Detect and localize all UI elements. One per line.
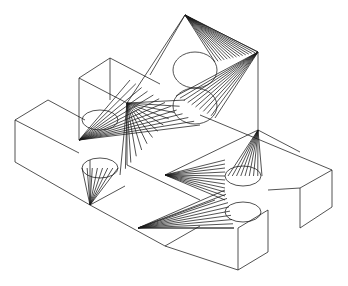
ruling-line [79, 121, 194, 140]
ruling-line [138, 198, 227, 228]
ruling-line [180, 52, 258, 98]
edge-line [200, 115, 332, 170]
ruling-line [138, 194, 226, 228]
cylinder-ellipse [173, 52, 217, 88]
edge-line [165, 246, 238, 270]
ruling-line [90, 168, 108, 205]
edge-line [79, 58, 110, 78]
ruling-line [258, 130, 262, 176]
cylinder-ellipse [225, 202, 261, 222]
ruling-line [199, 52, 258, 109]
ruling-line [184, 52, 258, 100]
edge-line [165, 226, 200, 246]
edge-line [258, 130, 300, 152]
edge-line [238, 252, 268, 270]
edge-line [238, 210, 268, 228]
edge-line [15, 162, 90, 205]
wireframe-figure [0, 0, 348, 286]
ruling-line [185, 15, 258, 52]
edge-line [48, 100, 85, 120]
ruling-line [90, 168, 118, 205]
ruling-line [215, 52, 258, 118]
block-edges [15, 15, 332, 270]
edge-line [300, 207, 332, 228]
ruling-line [138, 211, 230, 228]
ruling-line [176, 52, 258, 96]
ruling-line [165, 168, 225, 175]
ruling-line [196, 52, 259, 107]
edge-line [127, 15, 185, 103]
ruling-line [79, 106, 171, 140]
ruling-line [165, 175, 225, 188]
ruling-line [165, 175, 225, 196]
edge-line [15, 100, 48, 120]
edge-line [300, 170, 332, 188]
ruling-line [185, 15, 215, 62]
edge-line [15, 120, 79, 153]
ruling-line [185, 15, 224, 60]
edge-line [268, 188, 300, 190]
edge-line [150, 15, 185, 75]
